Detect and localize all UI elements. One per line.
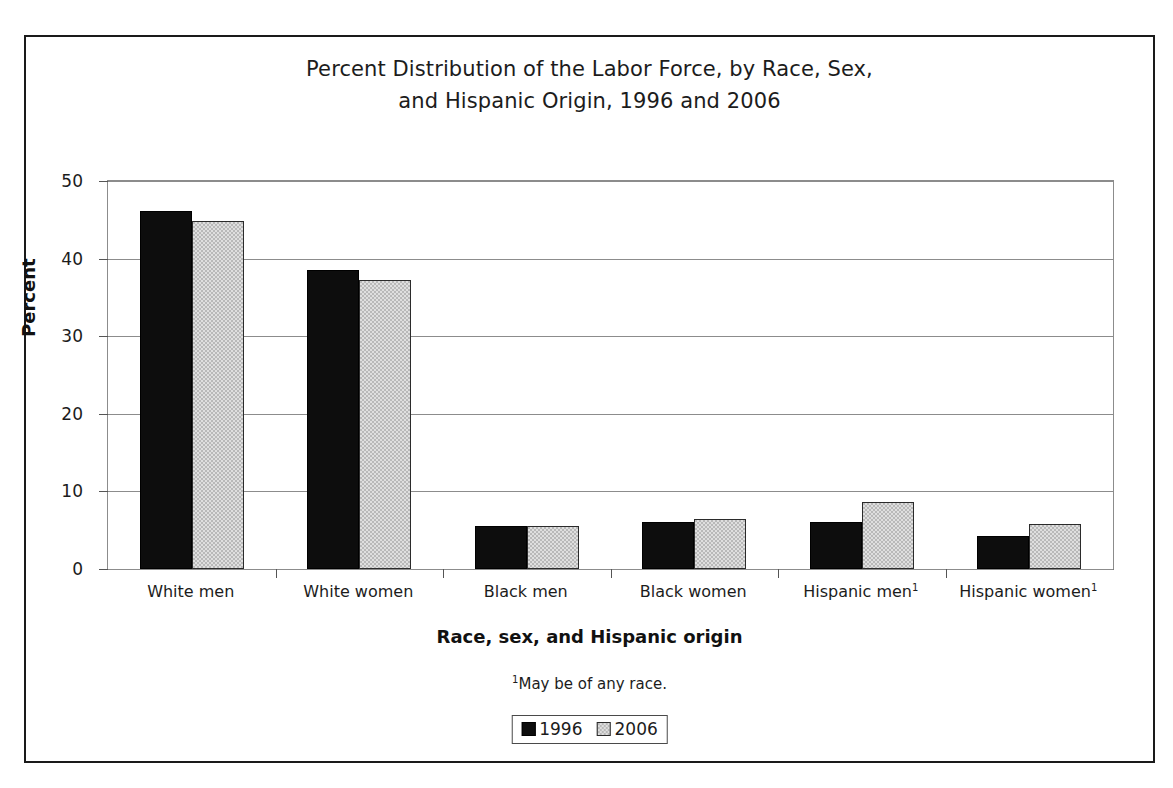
bar-2006-hispanic-men [862,502,914,569]
category-label-text: Black women [640,582,747,601]
chart-title-line-2: and Hispanic Origin, 1996 and 2006 [26,85,1153,117]
category-label-text: Hispanic men [803,582,912,601]
bar-group [977,181,1081,569]
chart-figure-frame: Percent Distribution of the Labor Force,… [24,35,1155,763]
footnote-text: May be of any race. [518,675,666,693]
y-axis-tick-label: 20 [61,404,83,424]
x-axis-category-label: Hispanic women1 [945,582,1113,601]
y-axis-tick: 50 [99,181,108,182]
bar-group [810,181,914,569]
legend-item-label: 2006 [615,719,658,739]
bar-2006-hispanic-women [1029,524,1081,569]
plot-area: 01020304050 [107,180,1114,570]
x-axis-title: Race, sex, and Hispanic origin [26,626,1153,647]
legend-item-1996: 1996 [521,719,582,739]
x-axis-category-label: Black men [442,582,610,601]
chart-title: Percent Distribution of the Labor Force,… [26,53,1153,117]
x-axis-category-label: Black women [610,582,778,601]
chart-legend: 19962006 [511,715,668,744]
x-axis-tick [611,569,612,578]
x-axis-category-label: White men [107,582,275,601]
bar-1996-hispanic-women [977,536,1029,569]
x-axis-tick [443,569,444,578]
category-footnote-marker: 1 [1091,582,1097,593]
bar-1996-black-men [475,526,527,569]
category-label-text: Hispanic women [959,582,1091,601]
gray-square-swatch [597,722,611,736]
chart-title-line-1: Percent Distribution of the Labor Force,… [26,53,1153,85]
x-axis-tick [276,569,277,578]
chart-footnote: 1May be of any race. [26,674,1153,693]
x-axis-category-label: Hispanic men1 [777,582,945,601]
bar-1996-white-women [307,270,359,569]
bar-1996-hispanic-men [810,522,862,569]
y-axis-title: Percent [18,258,39,337]
x-axis-tick [778,569,779,578]
bar-2006-white-women [359,280,411,569]
category-label-text: White women [303,582,413,601]
y-axis-tick: 20 [99,414,108,415]
bar-group [642,181,746,569]
legend-item-2006: 2006 [597,719,658,739]
category-label-text: White men [147,582,234,601]
black-square-swatch [521,722,535,736]
y-axis-tick-label: 10 [61,481,83,501]
bar-1996-white-men [140,211,192,570]
y-axis-tick: 0 [99,569,108,570]
bar-group [140,181,244,569]
category-footnote-marker: 1 [912,582,918,593]
bar-group [475,181,579,569]
y-axis-tick: 30 [99,336,108,337]
gridline [108,259,1113,260]
gridline [108,181,1113,182]
bar-group [307,181,411,569]
gridline [108,491,1113,492]
bar-2006-black-men [527,526,579,569]
bar-1996-black-women [642,522,694,569]
y-axis-tick: 40 [99,259,108,260]
x-axis-tick [946,569,947,578]
gridline [108,414,1113,415]
y-axis-tick-label: 0 [72,559,83,579]
category-label-text: Black men [484,582,568,601]
gridline [108,336,1113,337]
y-axis-tick-label: 50 [61,171,83,191]
x-axis-category-label: White women [275,582,443,601]
y-axis-tick: 10 [99,491,108,492]
y-axis-tick-label: 30 [61,326,83,346]
y-axis-tick-label: 40 [61,249,83,269]
bar-2006-white-men [192,221,244,569]
bar-2006-black-women [694,519,746,569]
legend-item-label: 1996 [539,719,582,739]
